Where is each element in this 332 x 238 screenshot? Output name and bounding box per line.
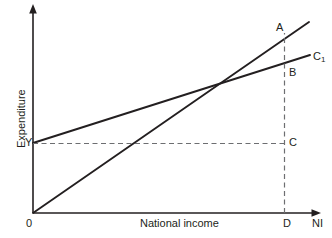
curve-label-c1: C1 [313, 51, 325, 64]
y-axis [29, 4, 37, 213]
point-label-d: D [283, 218, 291, 229]
x-axis [33, 209, 321, 217]
point-label-b: B [289, 67, 296, 78]
x-axis-label: National income [140, 218, 219, 229]
point-label-a: A [276, 22, 283, 33]
y-axis-arrowhead [29, 4, 37, 14]
curve-label-c1-base: C [313, 50, 321, 62]
x-axis-arrowhead [312, 209, 322, 217]
point-label-y: Y [25, 137, 32, 148]
consumption-curve-c1 [33, 55, 310, 143]
point-label-c: C [289, 137, 297, 148]
forty-five-degree-line [33, 22, 309, 213]
expenditure-national-income-chart [0, 0, 332, 238]
curve-label-c1-subscript: 1 [321, 55, 325, 64]
figure-canvas: Expenditure National income NI 0 Y A B C… [0, 0, 332, 238]
x-axis-name: NI [312, 218, 323, 229]
origin-label: 0 [26, 218, 32, 229]
